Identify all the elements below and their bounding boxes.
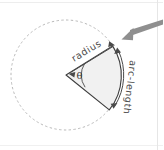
circle-sector-illustration: radius θ arc-length xyxy=(0,0,163,150)
arc-length-label: arc-length xyxy=(121,60,139,115)
diagram-canvas: radius θ arc-length xyxy=(0,0,163,150)
theta-angle-label: θ xyxy=(77,70,83,81)
pointer-arrow xyxy=(122,20,164,41)
